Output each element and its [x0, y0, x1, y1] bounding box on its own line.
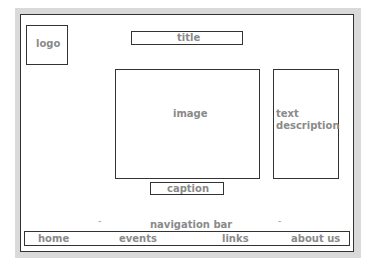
dash-left: -	[98, 216, 101, 226]
dash-right: -	[278, 216, 281, 226]
text-description-placeholder: text description	[273, 69, 339, 179]
nav-about-us[interactable]: about us	[291, 233, 340, 244]
caption-label: caption	[167, 183, 209, 194]
logo-placeholder: logo	[26, 25, 68, 65]
nav-home[interactable]: home	[38, 233, 69, 244]
nav-links[interactable]: links	[222, 233, 249, 244]
logo-label: logo	[36, 38, 60, 49]
caption-placeholder: caption	[150, 182, 224, 195]
image-label: image	[173, 108, 208, 119]
navigation-bar: home events links about us	[24, 231, 350, 246]
nav-events[interactable]: events	[119, 233, 157, 244]
image-placeholder: image	[115, 69, 260, 179]
navigation-bar-label: navigation bar	[150, 219, 232, 230]
title-label: title	[177, 32, 200, 43]
text-description-label: text description	[276, 108, 340, 132]
title-placeholder: title	[131, 31, 243, 45]
